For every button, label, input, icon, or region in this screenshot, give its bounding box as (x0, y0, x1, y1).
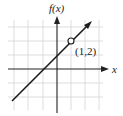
point-label: (1,2) (75, 45, 96, 58)
y-axis (54, 16, 60, 113)
function-line (12, 21, 92, 101)
function-graph: (1,2) f(x) x (0, 0, 123, 116)
y-axis-label: f(x) (49, 2, 65, 15)
x-axis-label: x (111, 63, 117, 75)
y-axis-arrow-icon (54, 16, 60, 24)
x-axis-arrow-icon (101, 66, 109, 72)
x-axis (8, 66, 109, 72)
grid-lines (8, 20, 103, 110)
open-point-marker (68, 38, 74, 44)
